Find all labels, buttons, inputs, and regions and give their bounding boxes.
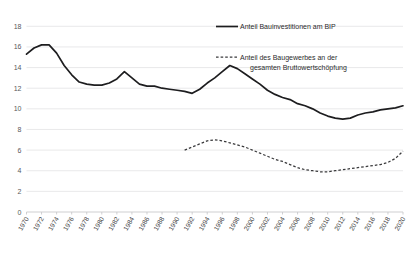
x-axis-tick-label: 2002 — [257, 215, 271, 231]
y-axis-tick-label: 0 — [18, 209, 22, 216]
x-axis-tick-label: 2008 — [303, 215, 317, 231]
legend-label-baugewerbe-line1: Anteil des Baugewerbes an der — [240, 54, 338, 62]
x-axis-tick-label: 1996 — [212, 215, 226, 231]
line-chart: 024681012141618 197019721974197619781980… — [0, 0, 409, 257]
x-axis-tick-label: 1970 — [16, 215, 30, 231]
legend-label-baugewerbe-line2: gesamten Bruttowertschöpfung — [250, 64, 347, 72]
y-axis-tick-label: 8 — [18, 126, 22, 133]
x-axis-tick-label: 2000 — [242, 215, 256, 231]
x-axis-tick-label: 2010 — [318, 215, 332, 231]
x-axis-tick-label: 1988 — [152, 215, 166, 231]
legend-label-bauinvestitionen: Anteil Bauinvestitionen am BIP — [240, 23, 336, 30]
x-axis-tick-label: 1994 — [197, 215, 211, 231]
x-axis-tick-label: 1982 — [107, 215, 121, 231]
x-axis-tick-label: 1992 — [182, 215, 196, 231]
x-axis-tick-label: 1990 — [167, 215, 181, 231]
x-axis-tick-label: 2014 — [348, 215, 362, 231]
x-axis-tick-label: 1984 — [122, 215, 136, 231]
x-axis-tick-label: 2018 — [378, 215, 392, 231]
y-axis-tick-label: 18 — [14, 23, 22, 30]
chart-container: 024681012141618 197019721974197619781980… — [0, 0, 409, 257]
x-axis-tick-label: 1986 — [137, 215, 151, 231]
y-axis-tick-label: 4 — [18, 167, 22, 174]
x-axis-tick-label: 2012 — [333, 215, 347, 231]
series-line-baugewerbe — [185, 140, 403, 172]
x-axis-tick-label: 1976 — [62, 215, 76, 231]
y-axis-tick-label: 2 — [18, 188, 22, 195]
x-axis-tick-label: 1998 — [227, 215, 241, 231]
x-axis-tick-label: 1980 — [92, 215, 106, 231]
y-axis-tick-label: 16 — [14, 43, 22, 50]
x-axis-tick-label: 2016 — [363, 215, 377, 231]
x-axis-tick-labels: 1970197219741976197819801982198419861988… — [16, 215, 406, 231]
x-axis-tick-label: 2020 — [393, 215, 407, 231]
x-axis-tick-label: 1978 — [77, 215, 91, 231]
y-axis-tick-label: 14 — [14, 64, 22, 71]
y-axis-tick-label: 12 — [14, 85, 22, 92]
x-axis-tick-label: 1972 — [32, 215, 46, 231]
y-axis-tick-label: 10 — [14, 105, 22, 112]
x-axis-tick-label: 2004 — [272, 215, 286, 231]
y-axis-tick-labels: 024681012141618 — [14, 23, 22, 216]
y-axis-tick-label: 6 — [18, 147, 22, 154]
x-axis-tick-label: 1974 — [47, 215, 61, 231]
x-axis-tick-label: 2006 — [288, 215, 302, 231]
series-line-bauinvestitionen — [27, 45, 404, 119]
